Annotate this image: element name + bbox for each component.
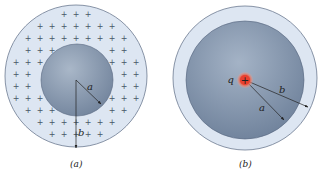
plus-charge-icon: +	[73, 34, 80, 43]
plus-charge-icon: +	[25, 58, 32, 67]
plus-charge-icon: +	[49, 118, 56, 127]
plus-charge-icon: +	[85, 22, 92, 31]
plus-charge-icon: +	[109, 106, 116, 115]
plus-charge-icon: +	[85, 34, 92, 43]
charge-plus-sign: +	[241, 75, 249, 86]
plus-charge-icon: +	[121, 34, 128, 43]
plus-charge-icon: +	[37, 94, 44, 103]
plus-charge-icon: +	[61, 118, 68, 127]
plus-charge-icon: +	[37, 34, 44, 43]
plus-charge-icon: +	[37, 58, 44, 67]
radius-b-label: b	[279, 84, 285, 95]
plus-charge-icon: +	[121, 70, 128, 79]
plus-charge-icon: +	[85, 118, 92, 127]
plus-charge-icon: +	[49, 22, 56, 31]
caption-a: (a)	[70, 159, 83, 169]
plus-charge-icon: +	[25, 34, 32, 43]
radius-b-label: b	[78, 127, 84, 138]
plus-charge-icon: +	[37, 22, 44, 31]
plus-charge-icon: +	[121, 106, 128, 115]
plus-charge-icon: +	[37, 118, 44, 127]
plus-charge-icon: +	[49, 34, 56, 43]
plus-charge-icon: +	[61, 10, 68, 19]
figure-a: ++++++++++++++++++++++++++++++++++++++++…	[5, 5, 147, 169]
plus-charge-icon: +	[13, 70, 20, 79]
plus-charge-icon: +	[109, 34, 116, 43]
plus-charge-icon: +	[49, 130, 56, 139]
plus-charge-icon: +	[25, 94, 32, 103]
charge-q-label: q	[228, 74, 234, 85]
plus-charge-icon: +	[37, 106, 44, 115]
figure-b: + q b a (b)	[173, 6, 317, 169]
plus-charge-icon: +	[97, 22, 104, 31]
plus-charge-icon: +	[109, 46, 116, 55]
plus-charge-icon: +	[61, 130, 68, 139]
plus-charge-icon: +	[85, 130, 92, 139]
caption-b: (b)	[239, 159, 252, 169]
plus-charge-icon: +	[109, 118, 116, 127]
plus-charge-icon: +	[61, 22, 68, 31]
radius-a-label: a	[259, 102, 265, 113]
plus-charge-icon: +	[97, 34, 104, 43]
plus-charge-icon: +	[73, 22, 80, 31]
plus-charge-icon: +	[109, 22, 116, 31]
plus-charge-icon: +	[97, 118, 104, 127]
plus-charge-icon: +	[133, 82, 140, 91]
plus-charge-icon: +	[121, 94, 128, 103]
plus-charge-icon: +	[13, 94, 20, 103]
plus-charge-icon: +	[121, 82, 128, 91]
plus-charge-icon: +	[37, 46, 44, 55]
inner-sphere-a	[41, 44, 113, 116]
plus-charge-icon: +	[133, 70, 140, 79]
plus-charge-icon: +	[25, 46, 32, 55]
plus-charge-icon: +	[73, 10, 80, 19]
plus-charge-icon: +	[25, 82, 32, 91]
plus-charge-icon: +	[25, 106, 32, 115]
diagram-canvas: ++++++++++++++++++++++++++++++++++++++++…	[0, 0, 319, 175]
radius-a-label: a	[87, 81, 93, 92]
plus-charge-icon: +	[121, 46, 128, 55]
plus-charge-icon: +	[13, 58, 20, 67]
plus-charge-icon: +	[85, 10, 92, 19]
plus-charge-icon: +	[97, 130, 104, 139]
plus-charge-icon: +	[133, 58, 140, 67]
plus-charge-icon: +	[25, 70, 32, 79]
plus-charge-icon: +	[133, 94, 140, 103]
plus-charge-icon: +	[13, 82, 20, 91]
plus-charge-icon: +	[121, 58, 128, 67]
plus-charge-icon: +	[61, 34, 68, 43]
